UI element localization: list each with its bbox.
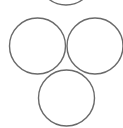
- left-circle: [10, 18, 66, 74]
- right-circle: [67, 18, 123, 74]
- top-circle: [38, 0, 94, 5]
- circles-canvas: [0, 0, 123, 128]
- bottom-circle: [39, 70, 95, 126]
